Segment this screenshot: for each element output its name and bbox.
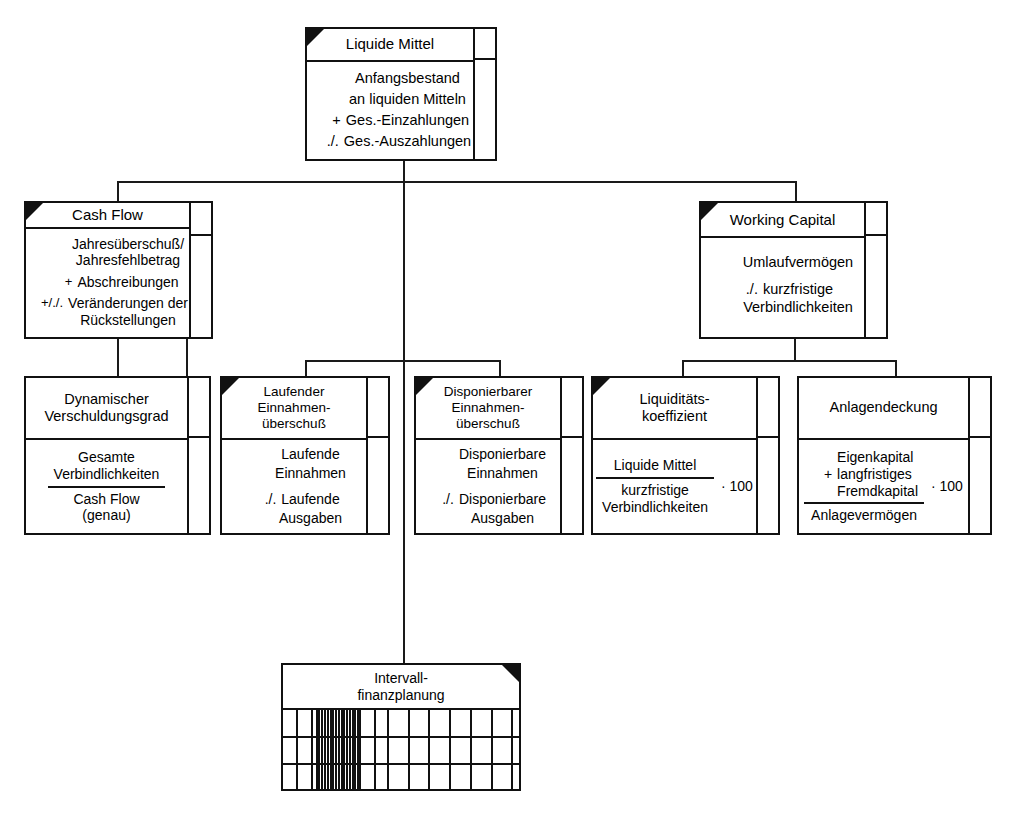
node-title-line: überschuß bbox=[444, 416, 533, 432]
line-text: Umlaufvermögen bbox=[743, 253, 853, 271]
node-title-line: Intervall- bbox=[357, 670, 444, 687]
corner-triangle-icon bbox=[222, 378, 239, 395]
operator: + bbox=[36, 274, 77, 290]
grid-column-line bbox=[346, 710, 348, 789]
corner-triangle-icon bbox=[502, 665, 519, 682]
denominator-line: kurzfristige bbox=[602, 482, 708, 499]
content-line: Disponierbare bbox=[430, 446, 546, 464]
corner-triangle-icon bbox=[26, 203, 43, 220]
node-title-line: Laufender bbox=[258, 384, 331, 400]
content-line: ./.Laufende bbox=[248, 491, 339, 509]
grid-column-line bbox=[470, 710, 472, 789]
node-laufender-einnahmenueberschuss[interactable]: Laufender Einnahmen- überschuß Laufende … bbox=[220, 376, 390, 535]
line-text: Abschreibungen bbox=[77, 274, 178, 292]
content-line: +Abschreibungen bbox=[36, 274, 178, 292]
numerator-line: Liquide Mittel bbox=[614, 457, 697, 474]
connector-level1-bus bbox=[118, 181, 797, 183]
corner-triangle-icon bbox=[416, 378, 433, 395]
line-text: Veränderungen der bbox=[68, 295, 188, 313]
connector-workingcapital-bus bbox=[682, 360, 897, 362]
grid-column-line bbox=[296, 710, 298, 789]
line-text: Ausgaben bbox=[471, 510, 534, 528]
node-header: Laufender Einnahmen- überschuß bbox=[222, 378, 366, 440]
node-header: Anlagendeckung bbox=[799, 378, 968, 440]
node-working-capital[interactable]: Working Capital Umlaufvermögen ./.kurzfr… bbox=[699, 201, 888, 339]
connector-to-working-capital bbox=[795, 181, 797, 202]
corner-triangle-icon bbox=[593, 378, 610, 395]
node-liquide-mittel[interactable]: Liquide Mittel Anfangsbestand an liquide… bbox=[305, 27, 497, 161]
node-title: Liquide Mittel bbox=[346, 35, 434, 53]
fraction-stack: Eigenkapital +langfristiges Fremdkapital… bbox=[804, 449, 924, 524]
node-title: Cash Flow bbox=[72, 206, 143, 224]
node-title-line: Einnahmen- bbox=[258, 400, 331, 416]
line-text: Ausgaben bbox=[279, 510, 342, 528]
node-cash-flow[interactable]: Cash Flow Jahresüberschuß/ Jahresfehlbet… bbox=[24, 201, 213, 339]
node-body: Cash Flow Jahresüberschuß/ Jahresfehlbet… bbox=[26, 203, 189, 337]
fraction: Liquide Mittel kurzfristige Verbindlichk… bbox=[596, 457, 753, 515]
line-text: Einnahmen bbox=[275, 465, 346, 483]
line-text: Rückstellungen bbox=[80, 312, 176, 330]
side-panel-bottom bbox=[866, 236, 886, 337]
grid-column-line bbox=[387, 710, 389, 789]
fraction-denominator: Anlagevermögen bbox=[805, 507, 923, 524]
line-text: Anfangsbestand bbox=[355, 69, 460, 87]
node-content: Laufende Einnahmen ./.Laufende Ausgaben bbox=[222, 440, 366, 533]
node-title: Working Capital bbox=[730, 211, 836, 229]
node-header: Liquiditäts- koeffizient bbox=[593, 378, 756, 440]
node-header: Dynamischer Verschuldungsgrad bbox=[26, 378, 187, 440]
side-panel-bottom bbox=[475, 60, 495, 159]
node-content: Liquide Mittel kurzfristige Verbindlichk… bbox=[593, 440, 756, 533]
content-line: Jahresfehlbetrag bbox=[35, 252, 180, 270]
side-panel-bottom bbox=[368, 438, 388, 533]
denominator-line: Anlagevermögen bbox=[811, 507, 917, 524]
fraction-multiplier: · 100 bbox=[924, 478, 963, 496]
node-liquiditaetskoeffizient[interactable]: Liquiditäts- koeffizient Liquide Mittel … bbox=[591, 376, 780, 535]
connector-to-anlagendeckung bbox=[895, 360, 897, 377]
numerator-line: +langfristiges bbox=[810, 466, 918, 483]
content-line: +Ges.-Einzahlungen bbox=[311, 111, 469, 129]
node-disponierbarer-einnahmenueberschuss[interactable]: Disponierbarer Einnahmen- überschuß Disp… bbox=[414, 376, 584, 535]
content-line: Einnahmen bbox=[242, 465, 346, 483]
connector-cashflow-stem bbox=[186, 339, 188, 377]
grid-column-line bbox=[491, 710, 493, 789]
node-side-panel bbox=[756, 378, 778, 533]
line-text: Einnahmen bbox=[467, 465, 538, 483]
fraction-numerator: Eigenkapital +langfristiges Fremdkapital bbox=[804, 449, 924, 499]
line-text: Laufende bbox=[281, 491, 339, 509]
node-title-line: Einnahmen- bbox=[444, 400, 533, 416]
line-text: Laufende bbox=[281, 446, 339, 464]
line-text: Ges.-Einzahlungen bbox=[346, 111, 469, 129]
node-side-panel bbox=[864, 203, 886, 337]
side-panel-top bbox=[189, 378, 209, 438]
fraction-stack: Liquide Mittel kurzfristige Verbindlichk… bbox=[596, 457, 714, 515]
planning-grid[interactable] bbox=[283, 710, 519, 789]
line-text: Verbindlichkeiten bbox=[743, 298, 853, 316]
node-body: Working Capital Umlaufvermögen ./.kurzfr… bbox=[701, 203, 864, 337]
fraction-denominator: Cash Flow (genau) bbox=[67, 491, 145, 525]
numerator-line: Fremdkapital bbox=[810, 483, 918, 500]
node-title-line: Anlagendeckung bbox=[829, 399, 937, 416]
connector-root-stem bbox=[403, 161, 405, 183]
fraction: Eigenkapital +langfristiges Fremdkapital… bbox=[804, 449, 963, 524]
content-line: Einnahmen bbox=[438, 465, 538, 483]
node-anlagendeckung[interactable]: Anlagendeckung Eigenkapital +langfristig… bbox=[797, 376, 992, 535]
node-intervallfinanzplanung[interactable]: Intervall- finanzplanung bbox=[281, 663, 521, 791]
node-body: Anlagendeckung Eigenkapital +langfristig… bbox=[799, 378, 968, 533]
grid-column-line bbox=[449, 710, 451, 789]
grid-column-line bbox=[321, 710, 323, 789]
connector-workingcapital-stem bbox=[794, 339, 796, 361]
line-text: Disponierbare bbox=[459, 446, 546, 464]
grid-column-line bbox=[354, 710, 356, 789]
connector-root-to-intervall bbox=[403, 181, 405, 664]
side-panel-top bbox=[368, 378, 388, 438]
node-dynamischer-verschuldungsgrad[interactable]: Dynamischer Verschuldungsgrad Gesamte Ve… bbox=[24, 376, 211, 535]
content-line: ./.Ges.-Auszahlungen bbox=[309, 132, 471, 150]
grid-column-line bbox=[311, 710, 313, 789]
side-panel-top bbox=[475, 29, 495, 60]
side-panel-top bbox=[970, 378, 990, 438]
line-text: Ges.-Auszahlungen bbox=[344, 132, 471, 150]
content-line: Ausgaben bbox=[442, 510, 534, 528]
content-line: Anfangsbestand bbox=[320, 69, 460, 87]
node-header: Disponierbarer Einnahmen- überschuß bbox=[416, 378, 560, 440]
node-content: Umlaufvermögen ./.kurzfristige Verbindli… bbox=[701, 238, 864, 337]
